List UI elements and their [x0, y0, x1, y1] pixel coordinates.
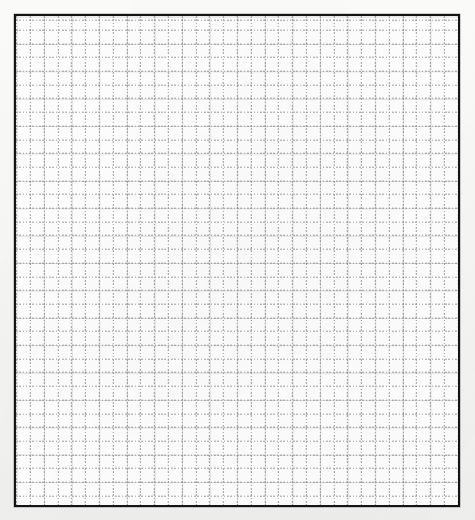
grid-field: [16, 16, 458, 505]
grid-dotted-horizontal-lines: [16, 16, 458, 505]
grid-sheet-page: [0, 0, 475, 520]
grid-sheet-frame: [14, 14, 460, 507]
